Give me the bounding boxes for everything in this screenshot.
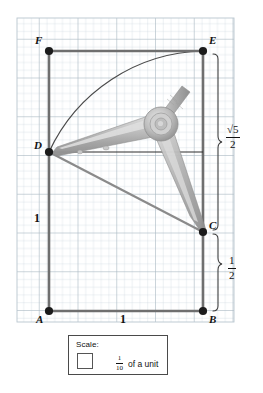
compass-hub-center-screw bbox=[158, 121, 163, 126]
vertex-dot-C bbox=[199, 228, 207, 236]
scale-fraction: 1 10 bbox=[116, 355, 123, 373]
vertex-label-E: E bbox=[209, 35, 216, 46]
scale-legend: Scale: 1 10 of a unit bbox=[68, 335, 168, 375]
measure-label-one-half: 1 2 bbox=[228, 255, 236, 281]
vertex-label-C: C bbox=[209, 220, 216, 231]
scale-denominator: 10 bbox=[116, 364, 123, 372]
scale-unit-text: of a unit bbox=[128, 359, 158, 369]
compass-screw-1 bbox=[103, 146, 109, 150]
vertex-dot-A bbox=[45, 307, 53, 315]
measure-label-sqrt5-over-2: √5 2 bbox=[226, 124, 240, 150]
geometry-figure: F E D C A B 1 1 √5 2 1 2 Scale: 1 10 of … bbox=[0, 0, 263, 393]
label-side-AB: 1 bbox=[120, 313, 126, 325]
vertex-label-A: A bbox=[36, 314, 43, 325]
vertex-label-B: B bbox=[209, 314, 216, 325]
scale-legend-title: Scale: bbox=[76, 340, 99, 349]
measure-numerator-sqrt5: √5 bbox=[226, 124, 240, 138]
vertex-dot-B bbox=[199, 307, 207, 315]
vertex-label-D: D bbox=[34, 140, 42, 151]
vertex-dot-D bbox=[45, 148, 53, 156]
measure-denominator-two: 2 bbox=[226, 138, 240, 151]
label-side-AD: 1 bbox=[34, 212, 40, 224]
compass-screw-2 bbox=[77, 150, 82, 154]
measure-numerator-one: 1 bbox=[228, 255, 236, 269]
vertex-dot-F bbox=[45, 47, 53, 55]
scale-unit-square-icon bbox=[77, 353, 93, 369]
scale-numerator: 1 bbox=[116, 355, 123, 364]
measure-denominator-two-b: 2 bbox=[228, 269, 236, 282]
vertex-label-F: F bbox=[35, 35, 42, 46]
vertex-dot-E bbox=[199, 47, 207, 55]
